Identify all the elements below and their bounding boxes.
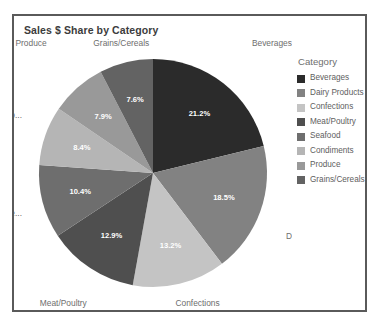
legend-item[interactable]: Confections <box>297 101 381 114</box>
pie-outer-category-label: Confections <box>175 298 219 308</box>
legend-item-label: Grains/Cereals <box>310 176 365 184</box>
pie-slice-group <box>39 59 267 287</box>
pie-outer-category-label: Se... <box>14 208 22 218</box>
legend-swatch-icon <box>297 104 305 112</box>
legend-item[interactable]: Meat/Poultry <box>297 116 381 129</box>
legend: Category BeveragesDairy ProductsConfecti… <box>297 56 381 188</box>
legend-title: Category <box>297 56 381 67</box>
pie-slice-percent-label: 12.9% <box>101 231 123 240</box>
pie-chart-svg: 21.2%18.5%13.2%12.9%10.4%8.4%7.9%7.6% Be… <box>14 34 292 312</box>
legend-item[interactable]: Grains/Cereals <box>297 174 381 187</box>
legend-item[interactable]: Condiments <box>297 145 381 158</box>
legend-swatch-icon <box>297 89 305 97</box>
legend-swatch-icon <box>297 75 305 83</box>
pie-outer-category-label: Co... <box>14 110 22 120</box>
pie-slice-percent-label: 10.4% <box>69 187 91 196</box>
legend-item[interactable]: Seafood <box>297 130 381 143</box>
pie-outer-category-label: Da... <box>286 231 292 241</box>
legend-swatch-icon <box>297 118 305 126</box>
visualization-root: Sales $ Share by Category 21.2%18.5%13.2… <box>0 0 381 329</box>
pie-slice-percent-label: 8.4% <box>73 143 91 152</box>
pie-outer-category-label: Grains/Cereals <box>93 38 149 48</box>
legend-item[interactable]: Beverages <box>297 72 381 85</box>
pie-slice-percent-label: 7.9% <box>94 112 112 121</box>
pie-outer-category-label: Meat/Poultry <box>40 298 88 308</box>
legend-swatch-icon <box>297 162 305 170</box>
pie-slice-percent-label: 7.6% <box>127 95 145 104</box>
legend-item-label: Produce <box>310 161 341 169</box>
legend-item-label: Meat/Poultry <box>310 118 356 126</box>
pie-slice-percent-label: 13.2% <box>160 241 182 250</box>
legend-item[interactable]: Dairy Products <box>297 87 381 100</box>
legend-swatch-icon <box>297 133 305 141</box>
legend-rows: BeveragesDairy ProductsConfectionsMeat/P… <box>297 72 381 187</box>
legend-item[interactable]: Produce <box>297 159 381 172</box>
pie-chart-area: 21.2%18.5%13.2%12.9%10.4%8.4%7.9%7.6% Be… <box>14 34 292 312</box>
pie-outer-category-label: Produce <box>15 38 47 48</box>
pie-slice-percent-label: 18.5% <box>213 193 235 202</box>
chart-frame: Sales $ Share by Category 21.2%18.5%13.2… <box>12 14 367 312</box>
legend-swatch-icon <box>297 176 305 184</box>
legend-swatch-icon <box>297 147 305 155</box>
legend-item-label: Confections <box>310 103 353 111</box>
legend-item-label: Dairy Products <box>310 89 364 97</box>
pie-outer-category-label: Beverages <box>252 38 292 48</box>
legend-item-label: Beverages <box>310 74 349 82</box>
pie-slice-percent-label: 21.2% <box>189 109 211 118</box>
legend-item-label: Condiments <box>310 147 354 155</box>
legend-item-label: Seafood <box>310 132 341 140</box>
